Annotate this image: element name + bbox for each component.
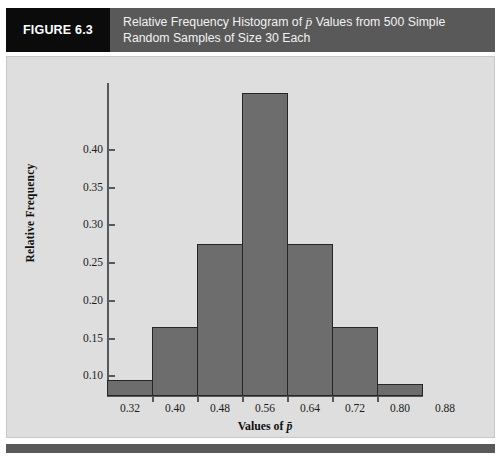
y-tick-label-wrap: 0.40 [63,143,103,155]
histogram-bar [287,244,333,396]
figure-title-part-1: Relative Frequency Histogram of [123,15,305,29]
y-tick-label-wrap: 0.35 [63,181,103,193]
y-tick-mark [109,224,115,226]
y-tick-label: 0.20 [67,294,103,306]
y-tick-label-wrap: 0.10 [63,369,103,381]
x-tick-label: 0.48 [200,402,240,414]
y-tick-label: 0.10 [67,369,103,381]
y-tick-mark [109,300,115,302]
y-tick-label: 0.15 [67,332,103,344]
y-tick-mark [109,375,115,377]
figure-title: Relative Frequency Histogram of p̄ Value… [123,14,445,47]
histogram-bar [152,327,198,396]
histogram-bar [197,244,243,396]
y-tick-label-wrap: 0.15 [63,332,103,344]
y-tick-label: 0.40 [67,143,103,155]
figure-title-line-2: Random Samples of Size 30 Each [123,31,310,45]
y-tick-mark [109,262,115,264]
x-tick-label: 0.64 [290,402,330,414]
y-tick-mark [109,338,115,340]
y-tick-label: 0.35 [67,181,103,193]
footer-rule [6,444,495,453]
x-tick-label: 0.72 [335,402,375,414]
y-tick-label-wrap: 0.25 [63,256,103,268]
y-tick-mark [109,187,115,189]
x-tick-label: 0.40 [155,402,195,414]
y-tick-label-wrap: 0.20 [63,294,103,306]
x-tick-mark [242,397,244,402]
y-tick-label: 0.30 [67,218,103,230]
x-axis-title: Values of p̄ [107,419,423,434]
y-tick-label: 0.25 [67,256,103,268]
y-axis-line [107,83,109,397]
x-tick-label: 0.80 [380,402,420,414]
figure-title-part-2: Values from 500 Simple [312,15,445,29]
figure-header: FIGURE 6.3 Relative Frequency Histogram … [6,8,495,52]
chart-panel: Relative Frequency 0.40 0.35 0.30 0.25 0… [6,56,495,438]
figure-number-label: FIGURE 6.3 [23,23,93,37]
x-tick-mark [287,397,289,402]
x-tick-label: 0.56 [245,402,285,414]
histogram-bar [332,327,378,396]
figure-number-block: FIGURE 6.3 [6,8,110,52]
p-bar-symbol: p̄ [286,419,292,433]
y-tick-mark [109,149,115,151]
x-tick-label: 0.32 [110,402,150,414]
x-tick-label: 0.88 [425,402,465,414]
histogram-bar [242,93,288,396]
x-tick-mark [152,397,154,402]
x-tick-mark [332,397,334,402]
x-axis-title-text: Values of [238,419,287,433]
histogram-bar [107,380,153,396]
histogram-bar [377,384,423,396]
figure-title-block: Relative Frequency Histogram of p̄ Value… [110,8,495,52]
figure-page: FIGURE 6.3 Relative Frequency Histogram … [0,0,501,468]
x-tick-mark [377,397,379,402]
y-tick-label-wrap: 0.30 [63,218,103,230]
y-axis-title: Relative Frequency [24,143,36,283]
x-tick-mark [197,397,199,402]
